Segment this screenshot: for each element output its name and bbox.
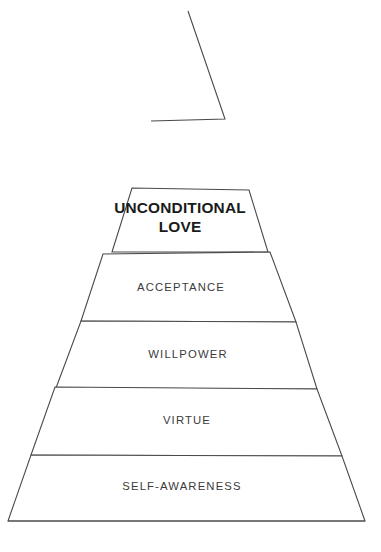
pyramid-level-unconditional-love-outline: [112, 188, 268, 252]
pyramid-level-apex-outline: [151, 11, 225, 121]
pyramid-level-willpower-outline: [56, 321, 317, 389]
pyramid-level-acceptance-outline: [81, 252, 296, 322]
pyramid-level-self-awareness-outline: [8, 455, 365, 521]
pyramid-diagram: UNCONDITIONAL LOVE ACCEPTANCE WILLPOWER …: [0, 0, 381, 552]
pyramid-outline-graphic: [0, 0, 381, 552]
pyramid-level-virtue-outline: [31, 387, 342, 456]
